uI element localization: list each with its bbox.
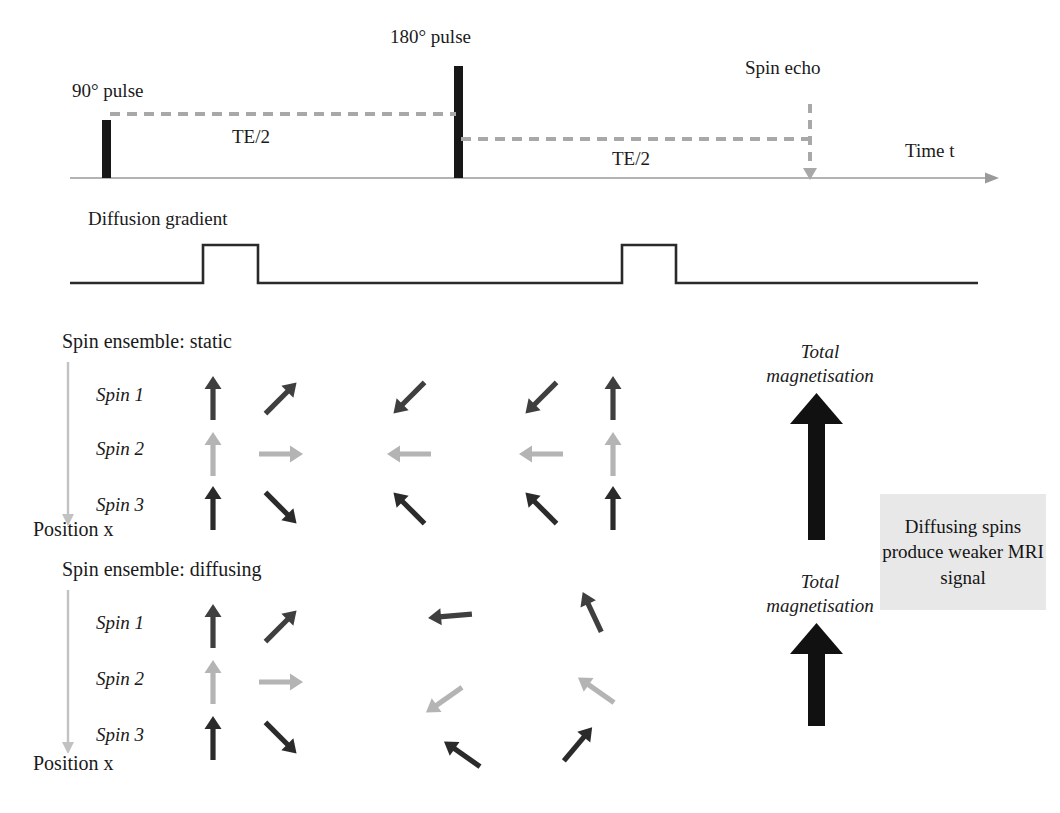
- spin-arrow-diffusing-c2-s1: [259, 604, 302, 647]
- spin-arrow-diffusing-c1-s1: [205, 604, 222, 648]
- ensemble-diffusing-graphics: [0, 0, 1060, 813]
- diffusing-spin-arrow-group: [205, 588, 619, 773]
- spin-arrow-diffusing-c3-s2: [421, 680, 467, 719]
- total-magnetisation-arrow-diffusing: [790, 623, 843, 726]
- spin-arrow-diffusing-c2-s3: [259, 716, 302, 759]
- weaker-signal-note: Diffusing spins produce weaker MRI signa…: [880, 494, 1046, 610]
- spin-arrow-diffusing-c4-s3: [557, 722, 598, 767]
- spin-arrow-diffusing-c1-s3: [205, 716, 222, 760]
- spin-arrow-diffusing-c4-s2: [573, 670, 619, 709]
- weaker-signal-note-text: Diffusing spins produce weaker MRI signa…: [880, 514, 1046, 591]
- spin-arrow-diffusing-c3-s3: [439, 734, 485, 773]
- spin-arrow-diffusing-c2-s2: [259, 674, 303, 691]
- spin-arrow-diffusing-c4-s1: [575, 588, 609, 635]
- figure-canvas: 90° pulse 180° pulse Spin echo TE/2 TE/2…: [0, 0, 1060, 813]
- spin-arrow-diffusing-c3-s1: [427, 606, 472, 627]
- spin-arrow-diffusing-c1-s2: [205, 660, 222, 704]
